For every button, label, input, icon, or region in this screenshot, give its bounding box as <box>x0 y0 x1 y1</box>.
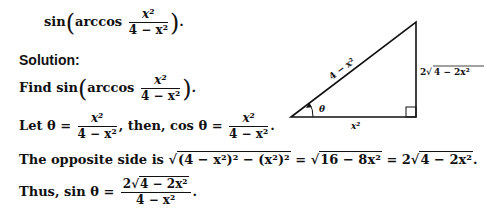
triangle <box>291 22 416 117</box>
right-triangle-diagram: θ 4 − x² x² 2 √ 4 − 2x² <box>0 0 487 219</box>
svg-text:4 − 2x²: 4 − 2x² <box>434 67 470 77</box>
right-angle-marker <box>406 107 416 117</box>
adjacent-label: x² <box>350 121 360 131</box>
svg-text:√: √ <box>426 67 432 77</box>
opposite-label: 2 √ 4 − 2x² <box>420 66 484 77</box>
angle-label: θ <box>319 104 325 114</box>
